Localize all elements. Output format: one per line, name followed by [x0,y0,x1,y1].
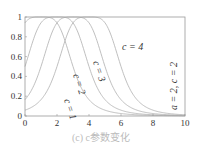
label-c2: c = 2 [71,72,88,96]
y-tick-label: 0.4 [11,71,23,81]
label-c1: c = 1 [62,97,79,121]
y-tick-label: 0.2 [11,91,22,101]
y-tick-label: 0.6 [11,52,23,62]
x-tick-label: 4 [87,118,92,128]
params-label: a = 2, c = 2 [168,62,179,110]
y-tick-label: 1 [18,12,23,22]
x-tick-label: 2 [55,118,60,128]
y-tick-label: 0 [18,111,23,121]
curves-group [25,17,185,116]
y-tick-label: 0.8 [11,32,23,42]
curve-c3 [25,17,185,115]
bell-curve-chart: 0246810 00.20.40.60.81 c = 1 c = 2 c = 3… [0,0,202,130]
y-axis-ticks: 00.20.40.60.81 [11,12,27,121]
x-tick-label: 6 [119,118,124,128]
x-tick-label: 0 [23,118,28,128]
x-tick-label: 10 [181,118,191,128]
x-tick-label: 8 [151,118,156,128]
figure-caption: (c) c参数变化 [0,129,202,144]
label-c4: c = 4 [122,41,143,52]
